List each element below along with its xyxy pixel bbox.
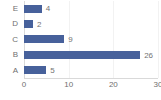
value-axis-ticks: 0102030: [24, 80, 158, 100]
bar-value-label-b: 26: [144, 48, 153, 63]
bar-d[interactable]: [24, 20, 33, 28]
bar-e[interactable]: [24, 5, 42, 13]
category-label-b: B: [13, 47, 18, 63]
gridline: [158, 1, 159, 78]
bar-chart: ABCDE 526924 0102030: [0, 0, 161, 100]
x-tick-label-20: 20: [109, 80, 118, 89]
bar-row: 5: [24, 63, 158, 78]
bar-value-label-d: 2: [37, 17, 41, 32]
bar-c[interactable]: [24, 35, 64, 43]
category-label-a: A: [13, 63, 18, 79]
bar-value-label-c: 9: [68, 32, 72, 47]
bar-a[interactable]: [24, 66, 46, 74]
category-axis: ABCDE: [0, 0, 22, 78]
category-label-e: E: [13, 1, 18, 17]
x-tick-label-10: 10: [64, 80, 73, 89]
bar-row: 9: [24, 32, 158, 47]
bar-row: 4: [24, 1, 158, 16]
category-axis-line: [24, 78, 158, 79]
category-label-c: C: [12, 32, 18, 48]
bar-row: 26: [24, 47, 158, 62]
bar-b[interactable]: [24, 51, 140, 59]
x-tick-label-0: 0: [22, 80, 26, 89]
plot-area: 526924: [24, 1, 158, 78]
category-label-d: D: [12, 16, 18, 32]
x-tick-label-30: 30: [154, 80, 161, 89]
bar-value-label-e: 4: [46, 1, 50, 16]
bar-value-label-a: 5: [50, 63, 54, 78]
bar-row: 2: [24, 16, 158, 31]
